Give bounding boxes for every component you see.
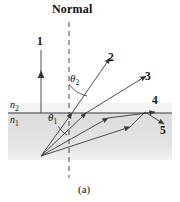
angle-theta2-label: θ2 xyxy=(70,73,79,87)
refractive-index-n2: n2 xyxy=(10,100,19,113)
lower-medium-region xyxy=(8,113,172,160)
ray-1-arrowhead xyxy=(38,70,45,78)
refractive-index-n1: n1 xyxy=(10,115,19,128)
theta2-subscript: 2 xyxy=(75,78,79,87)
upper-medium-region xyxy=(8,103,172,113)
n2-subscript: 2 xyxy=(15,104,19,113)
normal-label: Normal xyxy=(52,3,93,15)
ray-label-4: 4 xyxy=(152,95,158,107)
figure-caption: (a) xyxy=(78,184,90,195)
theta1-subscript: 1 xyxy=(53,117,57,126)
ray-label-5: 5 xyxy=(160,125,166,137)
ray-label-2: 2 xyxy=(108,52,114,64)
angle-theta1-label: θ1 xyxy=(48,112,57,126)
n1-subscript: 1 xyxy=(15,119,19,128)
refraction-figure: Normal n2 n1 θ2 θ1 1 2 3 4 5 (a) xyxy=(0,0,180,202)
ray-label-3: 3 xyxy=(145,71,151,83)
ray-label-1: 1 xyxy=(37,36,43,48)
